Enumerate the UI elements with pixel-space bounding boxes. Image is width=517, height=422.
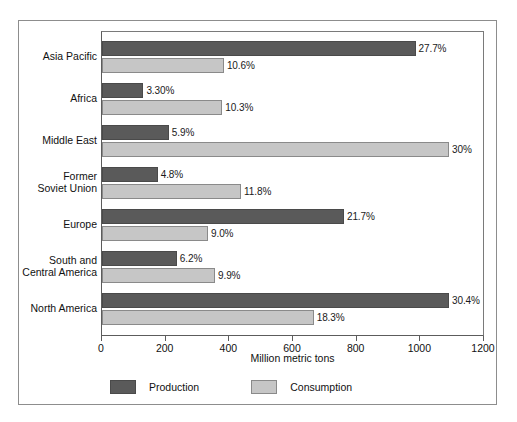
bar-value-label-consumption: 9.0% bbox=[211, 226, 233, 241]
x-axis-tick bbox=[228, 336, 229, 341]
legend-item-production: Production bbox=[110, 380, 199, 394]
plot-area: 27.7%10.6%3.30%10.3%5.9%30%4.8%11.8%21.7… bbox=[101, 31, 484, 336]
bar-value-label-consumption: 9.9% bbox=[218, 268, 240, 283]
x-axis-tick bbox=[356, 336, 357, 341]
bar-group: 27.7%10.6% bbox=[102, 41, 483, 75]
category-label: South andCentral America bbox=[2, 254, 97, 278]
bar-consumption bbox=[102, 268, 215, 283]
bar-value-label-consumption: 18.3% bbox=[317, 310, 345, 325]
bar-group: 30.4%18.3% bbox=[102, 293, 483, 327]
category-label-line: Africa bbox=[2, 92, 97, 104]
bar-value-label-production: 6.2% bbox=[180, 251, 202, 266]
category-label: Africa bbox=[2, 92, 97, 104]
bar-value-label-consumption: 10.3% bbox=[225, 100, 253, 115]
legend-swatch-consumption-icon bbox=[251, 380, 277, 394]
category-label-line: South and bbox=[2, 254, 97, 266]
category-label-line: Central America bbox=[2, 266, 97, 278]
chart-screenshot: 27.7%10.6%3.30%10.3%5.9%30%4.8%11.8%21.7… bbox=[0, 0, 517, 422]
bar-value-label-production: 30.4% bbox=[452, 293, 480, 308]
bar-value-label-consumption: 30% bbox=[452, 142, 472, 157]
bar-value-label-consumption: 10.6% bbox=[227, 58, 255, 73]
bar-group: 6.2%9.9% bbox=[102, 251, 483, 285]
chart-legend: Production Consumption bbox=[110, 378, 404, 396]
bar-production bbox=[102, 167, 158, 182]
bar-consumption bbox=[102, 226, 208, 241]
x-axis-tick bbox=[483, 336, 484, 341]
category-label-line: Soviet Union bbox=[2, 182, 97, 194]
bar-value-label-production: 4.8% bbox=[161, 167, 183, 182]
bar-group: 21.7%9.0% bbox=[102, 209, 483, 243]
bar-consumption bbox=[102, 58, 224, 73]
bar-group: 5.9%30% bbox=[102, 125, 483, 159]
category-label: North America bbox=[2, 302, 97, 314]
bar-value-label-consumption: 11.8% bbox=[244, 184, 271, 199]
category-axis-labels: Asia PacificAfricaMiddle EastFormerSovie… bbox=[0, 31, 97, 336]
bar-consumption bbox=[102, 184, 241, 199]
bar-group: 4.8%11.8% bbox=[102, 167, 483, 201]
bar-production bbox=[102, 209, 344, 224]
x-axis-title: Million metric tons bbox=[101, 352, 484, 364]
bar-consumption bbox=[102, 100, 222, 115]
bar-production bbox=[102, 83, 143, 98]
category-label: Middle East bbox=[2, 134, 97, 146]
bar-consumption bbox=[102, 310, 314, 325]
bar-production bbox=[102, 251, 177, 266]
bar-production bbox=[102, 293, 449, 308]
category-label: FormerSoviet Union bbox=[2, 170, 97, 194]
bar-value-label-production: 21.7% bbox=[347, 209, 375, 224]
category-label: Asia Pacific bbox=[2, 50, 97, 62]
x-axis-tick bbox=[419, 336, 420, 341]
bar-value-label-production: 5.9% bbox=[172, 125, 194, 140]
bar-production bbox=[102, 125, 169, 140]
category-label-line: North America bbox=[2, 302, 97, 314]
category-label-line: Middle East bbox=[2, 134, 97, 146]
category-label-line: Former bbox=[2, 170, 97, 182]
category-label: Europe bbox=[2, 218, 97, 230]
legend-item-consumption: Consumption bbox=[251, 380, 352, 394]
legend-label-production: Production bbox=[149, 381, 199, 393]
bar-value-label-production: 3.30% bbox=[146, 83, 174, 98]
bar-value-label-production: 27.7% bbox=[419, 41, 447, 56]
category-label-line: Asia Pacific bbox=[2, 50, 97, 62]
legend-swatch-production-icon bbox=[110, 380, 136, 394]
bar-group: 3.30%10.3% bbox=[102, 83, 483, 117]
x-axis-tick bbox=[165, 336, 166, 341]
bar-production bbox=[102, 41, 416, 56]
x-axis-tick bbox=[101, 336, 102, 341]
legend-label-consumption: Consumption bbox=[290, 381, 352, 393]
x-axis-tick bbox=[292, 336, 293, 341]
bar-consumption bbox=[102, 142, 449, 157]
category-label-line: Europe bbox=[2, 218, 97, 230]
